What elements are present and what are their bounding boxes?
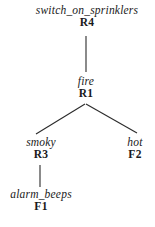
- tree-node-switch-on-sprinklers: switch_on_sprinklers R4: [36, 5, 138, 28]
- edge-fire-to-hot: [86, 104, 137, 133]
- tree-node-alarm-beeps: alarm_beeps F1: [10, 189, 72, 212]
- tree-node-fire: fire R1: [78, 76, 94, 99]
- node-rule-label: R1: [78, 88, 94, 100]
- node-rule-label: R4: [36, 17, 138, 29]
- node-rule-label: F1: [10, 201, 72, 213]
- tree-node-hot: hot F2: [127, 137, 142, 160]
- node-proposition-label: switch_on_sprinklers: [36, 5, 138, 17]
- inference-tree-diagram: switch_on_sprinklers R4 fire R1 smoky R3…: [0, 0, 155, 227]
- tree-node-smoky: smoky R3: [26, 137, 56, 160]
- node-proposition-label: smoky: [26, 137, 56, 149]
- node-proposition-label: hot: [127, 137, 142, 149]
- node-proposition-label: fire: [78, 76, 94, 88]
- edge-fire-to-smoky: [36, 104, 85, 134]
- node-rule-label: R3: [26, 149, 56, 161]
- node-proposition-label: alarm_beeps: [10, 189, 72, 201]
- node-rule-label: F2: [127, 149, 142, 161]
